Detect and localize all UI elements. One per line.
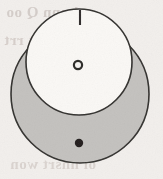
paper-grain-overlay <box>0 0 163 179</box>
figure-container: o bunn Q oo ionsrmk rrt nuv ra q oiln ra… <box>0 0 163 179</box>
geometric-figure <box>0 0 163 179</box>
